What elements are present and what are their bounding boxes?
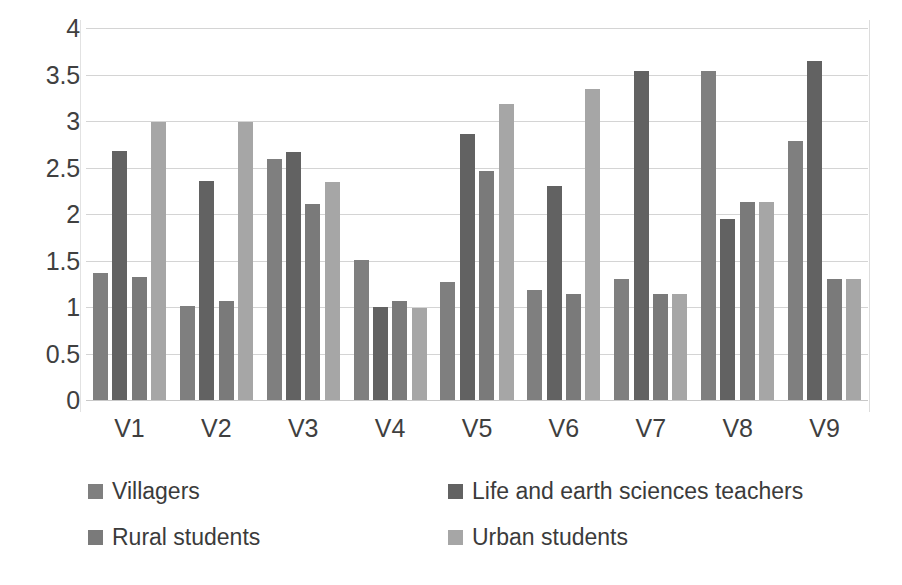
bar[interactable] <box>373 307 388 400</box>
legend-swatch-icon <box>88 530 103 545</box>
y-axis-tick: 1 <box>66 295 80 320</box>
bar-group <box>86 28 173 400</box>
y-axis-tick: 0.5 <box>46 341 80 366</box>
bar[interactable] <box>740 202 755 400</box>
bar-group <box>607 28 694 400</box>
legend-label: Villagers <box>112 480 200 503</box>
x-axis-tick: V9 <box>781 406 868 450</box>
bar[interactable] <box>788 141 803 400</box>
legend-swatch-icon <box>448 530 463 545</box>
x-axis-tick: V1 <box>86 406 173 450</box>
bar[interactable] <box>585 89 600 400</box>
bar-group <box>173 28 260 400</box>
legend-label: Life and earth sciences teachers <box>472 480 803 503</box>
x-axis-tick: V8 <box>694 406 781 450</box>
y-axis-tick: 2.5 <box>46 155 80 180</box>
bar[interactable] <box>412 308 427 400</box>
bar[interactable] <box>305 204 320 400</box>
x-axis-tick: V5 <box>434 406 521 450</box>
bar-group <box>434 28 521 400</box>
bar[interactable] <box>354 260 369 400</box>
bar-chart: 43.532.521.510.50 V1V2V3V4V5V6V7V8V9 Vil… <box>0 0 902 585</box>
bar[interactable] <box>392 301 407 400</box>
legend-item[interactable]: Rural students <box>88 526 260 549</box>
bar[interactable] <box>499 104 514 400</box>
bar[interactable] <box>219 301 234 401</box>
plot-region: 43.532.521.510.50 V1V2V3V4V5V6V7V8V9 <box>0 0 902 460</box>
bar[interactable] <box>199 181 214 400</box>
legend-label: Urban students <box>472 526 628 549</box>
bar[interactable] <box>151 122 166 400</box>
legend-swatch-icon <box>448 484 463 499</box>
legend-item[interactable]: Villagers <box>88 480 200 503</box>
y-axis-tick: 2 <box>66 202 80 227</box>
bar[interactable] <box>112 151 127 400</box>
x-axis-tick-labels: V1V2V3V4V5V6V7V8V9 <box>86 406 868 450</box>
bar[interactable] <box>132 277 147 400</box>
legend-label: Rural students <box>112 526 260 549</box>
y-axis-tick: 3 <box>66 109 80 134</box>
bar[interactable] <box>547 186 562 400</box>
bar-group <box>694 28 781 400</box>
bar-groups <box>86 28 868 400</box>
x-axis-tick: V4 <box>347 406 434 450</box>
plot-right-border <box>869 20 870 412</box>
x-axis-tick: V6 <box>520 406 607 450</box>
plot-area <box>86 28 868 400</box>
bar[interactable] <box>653 294 668 400</box>
bar[interactable] <box>720 219 735 400</box>
bar[interactable] <box>634 71 649 400</box>
bar[interactable] <box>566 294 581 400</box>
bar[interactable] <box>672 294 687 400</box>
bar[interactable] <box>93 273 108 400</box>
y-axis-tick: 3.5 <box>46 62 80 87</box>
y-axis-tick-labels: 43.532.521.510.50 <box>18 28 80 400</box>
legend-item[interactable]: Urban students <box>448 526 628 549</box>
bar[interactable] <box>846 279 861 400</box>
bar[interactable] <box>614 279 629 400</box>
bar[interactable] <box>238 122 253 400</box>
bar[interactable] <box>759 202 774 400</box>
bar[interactable] <box>460 134 475 400</box>
x-axis-tick: V2 <box>173 406 260 450</box>
bar-group <box>347 28 434 400</box>
bar[interactable] <box>180 306 195 400</box>
chart-legend: VillagersLife and earth sciences teacher… <box>0 462 902 582</box>
y-axis-tick: 0 <box>66 388 80 413</box>
y-axis-tick: 4 <box>66 16 80 41</box>
bar-group <box>781 28 868 400</box>
bar[interactable] <box>267 159 282 400</box>
legend-swatch-icon <box>88 484 103 499</box>
bar[interactable] <box>827 279 842 400</box>
bar[interactable] <box>701 71 716 400</box>
x-axis-tick: V7 <box>607 406 694 450</box>
legend-item[interactable]: Life and earth sciences teachers <box>448 480 803 503</box>
bar-group <box>260 28 347 400</box>
bar-group <box>520 28 607 400</box>
bar[interactable] <box>527 290 542 400</box>
gridline <box>86 400 868 401</box>
y-axis-tick: 1.5 <box>46 248 80 273</box>
bar[interactable] <box>440 282 455 400</box>
y-axis-line <box>80 20 81 412</box>
bar[interactable] <box>807 61 822 400</box>
x-axis-tick: V3 <box>260 406 347 450</box>
bar[interactable] <box>479 171 494 400</box>
bar[interactable] <box>286 152 301 400</box>
bar[interactable] <box>325 182 340 400</box>
